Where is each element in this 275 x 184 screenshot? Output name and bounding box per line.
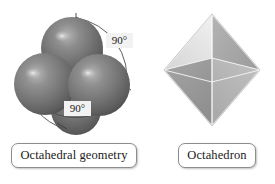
caption-octahedron: Octahedron [178, 143, 256, 168]
figure-root: 90° 90° [0, 0, 275, 184]
angle-label-bottom: 90° [64, 101, 91, 116]
octahedron-illustration [150, 0, 275, 140]
caption-octahedral-geometry: Octahedral geometry [11, 143, 137, 168]
angle-label-top: 90° [106, 33, 133, 48]
sphere-cluster-illustration [0, 0, 150, 140]
